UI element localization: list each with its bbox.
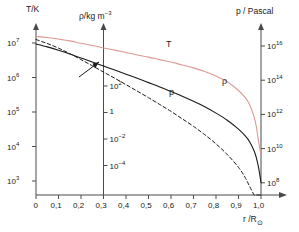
right-tick-0: 1016 <box>267 40 283 51</box>
x-tick-9: 0,9 <box>231 201 242 210</box>
mid-tick-2: 10−2 <box>110 133 126 144</box>
curve-p <box>36 40 261 196</box>
right-tick-3: 1010 <box>267 143 283 154</box>
solar-structure-chart: T/K ρ/kg m−3 p / Pascal r /R⊙ T ρ p 00,1… <box>0 0 299 232</box>
middle-axis-unit: /kg m <box>84 11 105 21</box>
right-tick-1: 1014 <box>267 74 283 85</box>
x-tick-1: 0,1 <box>51 201 62 210</box>
left-tick-3: 104 <box>7 141 19 152</box>
middle-axis-title: ρ/kg m−3 <box>79 10 111 21</box>
x-tick-3: 0,3 <box>96 201 107 210</box>
left-tick-4: 103 <box>7 175 19 186</box>
left-tick-2: 105 <box>7 106 19 117</box>
right-tick-2: 1012 <box>267 108 283 119</box>
x-tick-5: 0,5 <box>141 201 152 210</box>
curve-label-pressure: p <box>169 87 174 97</box>
left-axis-title: T/K <box>26 4 39 14</box>
x-tick-2: 0,2 <box>73 201 84 210</box>
right-axis-title: p / Pascal <box>236 6 273 16</box>
right-tick-4: 108 <box>267 177 279 188</box>
chart-canvas <box>0 0 299 232</box>
mid-tick-0: 102 <box>110 80 122 91</box>
mid-tick-1: 1 <box>110 107 114 116</box>
left-tick-0: 107 <box>7 37 19 48</box>
x-tick-7: 0,7 <box>186 201 197 210</box>
mid-tick-3: 10−4 <box>110 160 126 171</box>
x-tick-10: 1,0 <box>253 201 264 210</box>
middle-axis-exponent: −3 <box>105 10 112 16</box>
left-tick-1: 106 <box>7 72 19 83</box>
x-tick-0: 0 <box>34 201 38 210</box>
curve-label-temperature: T <box>166 39 172 49</box>
x-tick-6: 0,6 <box>163 201 174 210</box>
x-tick-4: 0,4 <box>118 201 129 210</box>
x-axis-title: r /R⊙ <box>243 214 263 227</box>
x-axis-label-text: r /R <box>243 214 257 224</box>
x-tick-8: 0,8 <box>208 201 219 210</box>
chart-generated-graphics <box>32 23 287 199</box>
curve-label-density: ρ <box>222 76 227 86</box>
sun-symbol-icon: ⊙ <box>257 219 263 226</box>
curve-rho <box>36 44 261 183</box>
